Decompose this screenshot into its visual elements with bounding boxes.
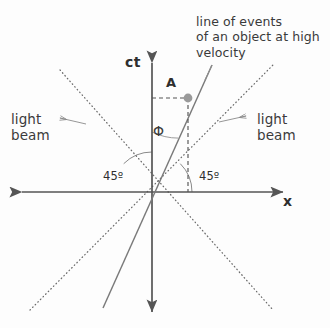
- light-beam-arrow-left: [60, 118, 86, 124]
- angle-arc-left-45: [124, 152, 152, 164]
- x-axis-label: x: [283, 193, 292, 210]
- light-beam-label-left: light beam: [11, 111, 50, 144]
- ct-axis-label: ct: [125, 54, 141, 71]
- worldline-of-object: [103, 65, 212, 308]
- angle-arc-right-45: [180, 164, 192, 192]
- annotation-leader-line: [205, 65, 212, 80]
- angle-phi-label: Φ: [153, 123, 164, 140]
- event-dot-a: [184, 94, 193, 103]
- event-label-a: A: [166, 75, 176, 91]
- angle-label-left-45: 45º: [103, 169, 123, 183]
- spacetime-diagram: line of events of an object at high velo…: [0, 0, 330, 328]
- light-beam-label-right: light beam: [257, 111, 296, 144]
- angle-label-right-45: 45º: [199, 169, 219, 183]
- worldline-annotation-text: line of events of an object at high velo…: [196, 14, 320, 60]
- light-cone-line-left-going: [60, 70, 273, 310]
- light-beam-arrow-right: [219, 116, 246, 122]
